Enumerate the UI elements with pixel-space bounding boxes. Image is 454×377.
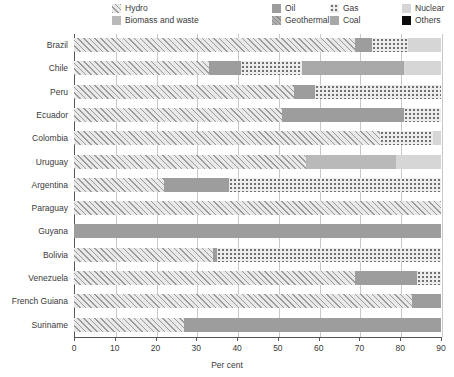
bar-row: Venezuela [0,271,454,285]
chart-legend: HydroBiomass and wasteOilGeothermalGasCo… [112,2,454,28]
bar-row: Bolivia [0,248,454,262]
bar-segment-gas [372,38,409,52]
x-tick-label: 50 [273,343,282,353]
legend-swatch-icon [272,4,281,13]
x-tick-label: 10 [110,343,119,353]
x-tick [319,337,320,341]
bar-segment-gas [229,178,441,192]
legend-label: Oil [285,3,295,13]
bar-segment-gas [417,271,441,285]
bar-segment-oil [355,38,371,52]
bar-segment-hydro [74,201,441,215]
y-tick-label: Peru [0,87,68,97]
bar-segment-hydro [74,85,294,99]
x-tick-label: 70 [355,343,364,353]
legend-label: Geothermal [285,15,329,25]
bar-segment-coal [302,61,404,75]
x-tick [278,337,279,341]
bar-segment-hydro [74,271,355,285]
legend-item-nuclear[interactable]: Nuclear [402,3,444,13]
legend-swatch-icon [112,16,121,25]
x-tick-label: 60 [314,343,323,353]
bar-segment-hydro [74,131,380,145]
x-tick [359,337,360,341]
legend-swatch-icon [330,16,339,25]
bar-segment-biomass [306,155,396,169]
legend-swatch-icon [402,4,411,13]
x-tick-label: 40 [232,343,241,353]
legend-item-biomass-and-waste[interactable]: Biomass and waste [112,15,199,25]
x-tick-label: 0 [72,343,77,353]
bar-segment-gas [241,61,302,75]
legend-swatch-icon [112,4,121,13]
x-tick [441,337,442,341]
x-tick-label: 30 [192,343,201,353]
bar-segment-oil [355,271,416,285]
bar-segment-nuclear [396,155,441,169]
bar-segment-hydro [74,155,306,169]
bar-segment-hydro [74,61,209,75]
legend-item-hydro[interactable]: Hydro [112,3,148,13]
x-tick [237,337,238,341]
bar-row: Colombia [0,131,454,145]
y-tick-label: Colombia [0,133,68,143]
bar-row: Peru [0,85,454,99]
y-tick-label: Brazil [0,40,68,50]
legend-label: Nuclear [415,3,444,13]
bar-segment-oil [164,178,229,192]
bar-row: Suriname [0,318,454,332]
y-tick-label: Argentina [0,180,68,190]
x-axis-line [74,337,442,338]
x-tick [196,337,197,341]
legend-item-gas[interactable]: Gas [330,3,359,13]
bar-segment-oil [74,224,441,238]
bar-segment-hydro [74,318,184,332]
y-tick-label: Suriname [0,320,68,330]
bar-segment-hydro [74,38,355,52]
x-tick [115,337,116,341]
legend-swatch-icon [402,16,411,25]
legend-label: Biomass and waste [125,15,199,25]
legend-label: Coal [343,15,360,25]
x-tick-label: 90 [436,343,445,353]
bar-segment-nuclear [404,61,441,75]
bar-segment-hydro [74,178,164,192]
bar-row: French Guiana [0,294,454,308]
bar-segment-hydro [74,108,282,122]
y-tick-label: Uruguay [0,157,68,167]
bar-segment-oil [294,85,314,99]
y-tick-label: Bolivia [0,250,68,260]
bar-segment-gas [404,108,441,122]
legend-item-coal[interactable]: Coal [330,15,360,25]
y-tick-label: Guyana [0,226,68,236]
y-tick-label: Chile [0,63,68,73]
y-tick-label: Venezuela [0,273,68,283]
y-tick-label: Ecuador [0,110,68,120]
bar-row: Argentina [0,178,454,192]
x-tick [156,337,157,341]
x-tick-label: 80 [395,343,404,353]
legend-item-geothermal[interactable]: Geothermal [272,15,329,25]
bar-segment-oil [412,294,441,308]
bar-segment-oil [282,108,404,122]
legend-swatch-icon [272,16,281,25]
bar-row: Uruguay [0,155,454,169]
x-axis-title: Per cent [0,360,454,370]
bar-segment-oil [184,318,441,332]
x-tick [74,337,75,341]
bar-segment-hydro [74,248,213,262]
y-tick-label: French Guiana [0,296,68,306]
chart-figure: HydroBiomass and wasteOilGeothermalGasCo… [0,0,454,377]
legend-item-others[interactable]: Others [402,15,441,25]
bar-row: Brazil [0,38,454,52]
legend-swatch-icon [330,4,339,13]
legend-label: Hydro [125,3,148,13]
legend-item-oil[interactable]: Oil [272,3,295,13]
bar-row: Paraguay [0,201,454,215]
bar-row: Guyana [0,224,454,238]
bar-segment-hydro [74,294,412,308]
bar-segment-gas [380,131,433,145]
bar-segment-gas [217,248,441,262]
x-tick-label: 20 [151,343,160,353]
bar-segment-nuclear [433,131,441,145]
